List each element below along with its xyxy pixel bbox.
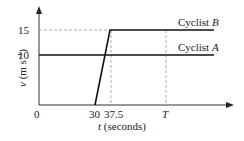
x-tick-37-5: 37.5	[104, 109, 123, 120]
y-axis-label: v (m s−1)	[16, 49, 29, 87]
x-tick-T: T	[162, 109, 168, 120]
x-axis-label: t (seconds)	[98, 121, 146, 132]
y-axis-arrow-icon	[36, 6, 42, 14]
x-tick-30: 30	[89, 109, 100, 120]
x-tick-0: 0	[34, 109, 40, 120]
legend-cyclist-b: Cyclist B	[178, 17, 219, 28]
x-axis-arrow-icon	[226, 102, 234, 108]
y-tick-15: 15	[18, 25, 29, 36]
velocity-time-chart: 15 10 v (m s−1) 0 30 37.5 T t (seconds) …	[0, 0, 244, 141]
legend-cyclist-a: Cyclist A	[178, 42, 219, 53]
